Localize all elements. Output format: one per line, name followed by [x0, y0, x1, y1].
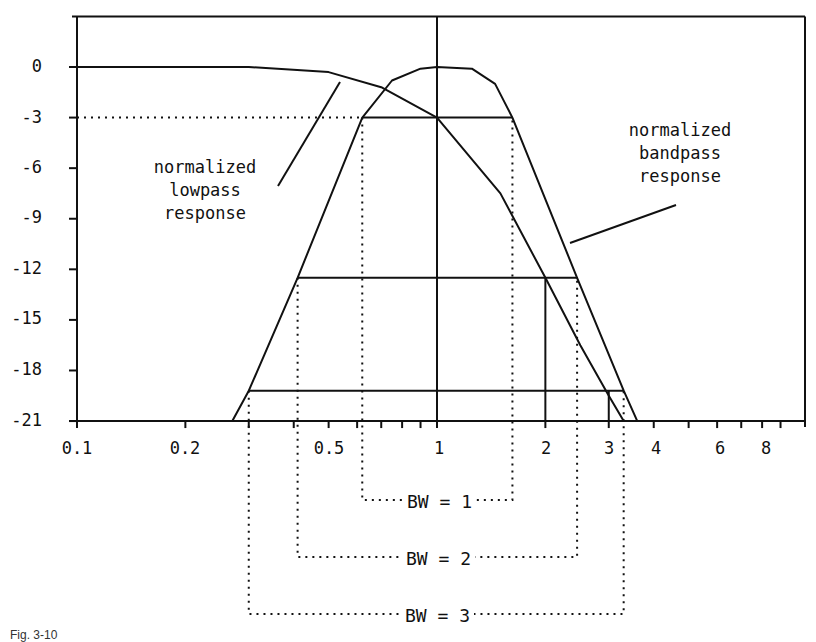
x-tick-label: 1 — [419, 438, 459, 458]
bandpass-annotation-line: response — [605, 165, 755, 188]
y-tick-label: 0 — [0, 56, 42, 76]
lowpass-annotation-line: response — [130, 202, 280, 225]
x-tick-label: 6 — [700, 438, 740, 458]
response-curves — [77, 67, 676, 421]
lowpass-curve — [77, 67, 624, 421]
y-tick-label: -6 — [0, 157, 42, 177]
y-tick-label: -21 — [0, 410, 42, 430]
lowpass-annotation-line: lowpass — [130, 179, 280, 202]
lowpass-annotation: normalized lowpass response — [130, 156, 280, 225]
x-tick-label: 4 — [636, 438, 676, 458]
bw3-label: BW = 3 — [401, 605, 474, 626]
lowpass-annotation-line: normalized — [130, 156, 280, 179]
bandpass-curve — [232, 67, 637, 421]
y-tick-label: -3 — [0, 107, 42, 127]
y-tick-label: -12 — [0, 258, 42, 278]
x-tick-label: 0.2 — [165, 438, 205, 458]
bw2-label: BW = 2 — [402, 548, 475, 569]
figure-caption: Fig. 3-10 — [10, 628, 57, 642]
x-tick-label: 8 — [746, 438, 786, 458]
y-tick-label: -15 — [0, 308, 42, 328]
lowpass-leader-line — [278, 82, 340, 186]
bandpass-annotation: normalized bandpass response — [605, 119, 755, 188]
y-tick-label: -18 — [0, 359, 42, 379]
y-tick-label: -9 — [0, 207, 42, 227]
bandpass-annotation-line: bandpass — [605, 142, 755, 165]
bw1-label: BW = 1 — [403, 491, 476, 512]
x-tick-label: 2 — [526, 438, 566, 458]
x-tick-label: 0.1 — [57, 438, 97, 458]
bandpass-leader-line — [570, 205, 676, 243]
bandpass-annotation-line: normalized — [605, 119, 755, 142]
x-tick-label: 3 — [589, 438, 629, 458]
x-tick-label: 0.5 — [309, 438, 349, 458]
